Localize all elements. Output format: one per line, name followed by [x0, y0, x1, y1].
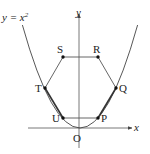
label-Q: Q	[119, 82, 127, 94]
y-axis-label: y	[75, 6, 81, 18]
label-S: S	[57, 43, 63, 55]
origin-label: O	[73, 132, 81, 144]
label-U: U	[52, 112, 60, 124]
point-S	[61, 55, 64, 58]
label-T: T	[35, 82, 42, 94]
hexagon-upper	[45, 57, 116, 88]
parabola-curve	[22, 25, 137, 128]
x-axis-label: x	[133, 121, 139, 133]
label-P: P	[101, 112, 107, 124]
point-R	[96, 55, 99, 58]
point-P	[96, 116, 99, 119]
point-Q	[114, 86, 117, 89]
curve-label: y = x2	[1, 11, 29, 23]
point-T	[43, 86, 46, 89]
parabola-hexagon-diagram: y = x2 y x O S R T Q U P	[0, 0, 150, 154]
point-U	[61, 116, 64, 119]
label-R: R	[93, 43, 101, 55]
